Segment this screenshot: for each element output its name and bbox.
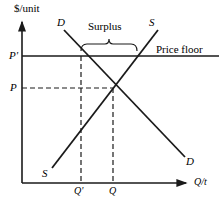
price-floor-tick-label: P' [9, 50, 18, 61]
y-axis-label: $/unit [14, 3, 40, 14]
supply-demand-price-floor-diagram: $/unit Q/t P' P Q' Q D D S S Surplus Pri… [0, 0, 219, 202]
supply-curve-top-label: S [149, 17, 155, 28]
demand-curve-bottom-label: D [186, 156, 194, 167]
supply-curve [52, 30, 158, 168]
equilibrium-quantity-tick-label: Q [109, 186, 116, 196]
surplus-brace [81, 39, 137, 51]
price-floor-label: Price floor [156, 44, 203, 55]
x-axis-label: Q/t [194, 177, 207, 187]
equilibrium-price-tick-label: P [10, 82, 17, 93]
supply-curve-bottom-label: S [42, 168, 48, 179]
surplus-label: Surplus [88, 21, 122, 32]
demand-curve-top-label: D [57, 17, 65, 28]
quantity-demanded-tick-label: Q' [74, 186, 83, 196]
